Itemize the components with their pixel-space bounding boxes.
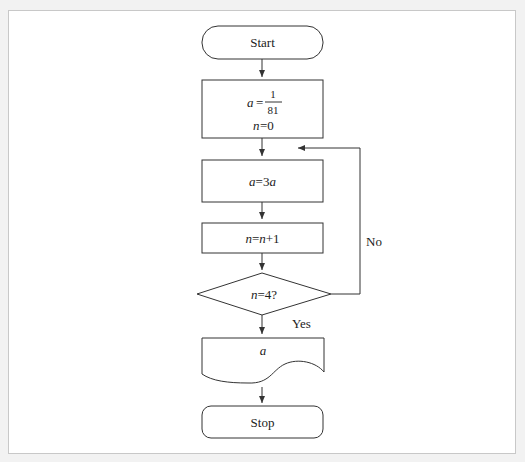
fraction-numerator: 1 xyxy=(270,88,276,100)
no-label: No xyxy=(366,234,382,249)
start-label: Start xyxy=(250,35,275,50)
decision-node: n=4? xyxy=(197,273,331,315)
stop-terminal: Stop xyxy=(202,406,323,438)
decision-expression: n=4? xyxy=(251,287,277,302)
stop-label: Stop xyxy=(251,415,275,430)
increment-process: n=n+1 xyxy=(202,223,323,253)
multiply-process: a=3a xyxy=(202,160,323,202)
canvas: Start a = 1 81 n =0 a=3a n=n+1 xyxy=(0,0,525,462)
output-document: a xyxy=(202,338,324,383)
multiply-expression: a=3a xyxy=(249,174,276,189)
fraction-denominator: 81 xyxy=(268,104,279,116)
start-terminal: Start xyxy=(202,26,323,59)
init-n-value: =0 xyxy=(260,118,274,133)
output-var: a xyxy=(260,343,267,358)
increment-expression: n=n+1 xyxy=(245,231,279,246)
init-process: a = 1 81 n =0 xyxy=(202,80,323,138)
yes-label: Yes xyxy=(292,316,311,331)
init-eq: = xyxy=(256,95,263,110)
no-branch-line xyxy=(331,148,360,294)
flowchart: Start a = 1 81 n =0 a=3a n=n+1 xyxy=(0,0,525,462)
init-var-a: a xyxy=(247,95,254,110)
init-var-n: n xyxy=(253,118,260,133)
